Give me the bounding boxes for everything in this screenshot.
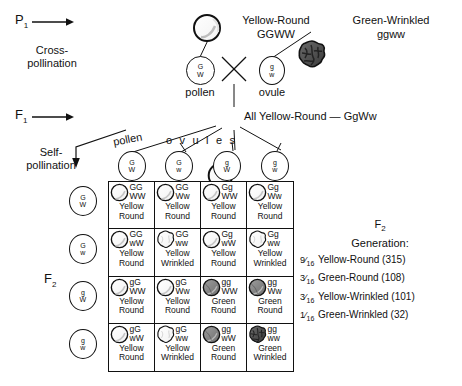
gamete-pollen-p1: G W [186,56,215,85]
punnett-cell: ggwWGreenRound [201,324,247,371]
punnett-cell: gGwWYellowRound [109,324,155,371]
side-gamete-3: g W [69,281,97,311]
punnett-cell-seed-and-genotype: GGwW [109,230,155,249]
punnett-cell-seed-and-genotype: ggww [247,325,293,344]
punnett-cell-genotype: ggWw [268,278,282,296]
seed-icon [110,183,129,202]
side-gamete-4: g w [69,329,97,359]
punnett-cell-phenotype-shape: Wrinkled [161,353,194,363]
punnett-cell-seed-and-genotype: ggWw [247,278,293,297]
genotype-gene-shape: wW [222,334,236,343]
punnett-cell-genotype: Ggww [268,230,280,248]
legend-subheading: Generation: [300,236,460,250]
punnett-cell-genotype: ggwW [222,325,236,343]
top-gamete-1: G W [118,151,146,181]
f1-caption: All Yellow-Round — GgWw [244,110,377,123]
seed-icon [248,230,267,249]
punnett-cell-phenotype-shape: Round [257,212,282,222]
punnett-cell-genotype: ggWW [222,278,238,296]
top-gamete-4: g w [261,151,289,181]
genotype-gene-shape: wW [130,239,144,248]
fraction-denominator: 16 [307,297,315,304]
seed-icon [110,230,129,249]
punnett-cell-genotype: GgWW [222,183,238,201]
legend-row-text: Green-Wrinkled (32) [318,309,408,320]
genotype-gene-shape: Ww [176,192,190,201]
genotype-gene-shape: ww [268,334,280,343]
genotype-gene-shape: ww [268,239,280,248]
punnett-cell: GGwwYellowWrinkled [155,229,201,276]
genotype-gene-shape: wW [130,334,144,343]
punnett-cell-seed-and-genotype: GGWW [109,183,155,202]
ovules-header-label: o v u l e s [166,134,237,147]
punnett-cell-seed-and-genotype: gGww [155,325,201,344]
punnett-cell-phenotype-shape: Round [119,212,144,222]
f1-label: F1 [15,108,27,127]
legend-fraction: 3⁄16 [300,271,315,289]
seed-icon [110,278,129,297]
seed-icon [202,325,221,344]
legend-row-text: Yellow-Wrinkled (101) [318,291,415,302]
fraction-denominator: 16 [307,278,315,285]
punnett-cell-seed-and-genotype: GgWW [201,183,247,202]
seed-icon [248,278,267,297]
punnett-cell-genotype: ggww [268,325,280,343]
parent-seed-green-wrinkled [298,40,462,68]
punnett-cell-phenotype-shape: Round [119,353,144,363]
punnett-cell: GgwwYellowWrinkled [247,229,293,276]
pollen-label-p1: pollen [172,86,228,99]
punnett-cell-seed-and-genotype: GGWw [155,183,201,202]
cross-pollination-label: Cross- pollination [8,44,96,70]
fraction-denominator: 16 [307,315,315,322]
parent-green-wrinkled-caption: Green-Wrinkled ggww [330,13,452,41]
ovule-label-p1: ovule [244,86,300,99]
top-gamete-3: g W [213,151,241,181]
punnett-square: GGWWYellowRoundGGWwYellowRoundGgWWYellow… [108,181,294,372]
punnett-cell-phenotype-shape: Round [211,259,236,269]
gamete-ovule-p1: g w [259,56,285,85]
genotype-gene-shape: ww [176,334,188,343]
top-gamete-2: G w [165,151,193,181]
punnett-cell-seed-and-genotype: gGwW [109,325,155,344]
punnett-cell: gGWWYellowRound [109,277,155,324]
genotype-gene-shape: Ww [268,192,282,201]
genotype-gene-shape: WW [130,192,146,201]
genotype-gene-shape: WW [222,287,238,296]
seed-icon [156,183,175,202]
genotype-gene-shape: wW [222,239,236,248]
legend-fraction: 1⁄16 [300,308,315,326]
genotype-gene-shape: ww [176,239,189,248]
punnett-cell-phenotype-shape: Round [211,212,236,222]
self-pollination-label: Self- pollination [5,146,97,172]
parent-yellow-round-caption: Yellow-Round GGWW [222,13,330,41]
punnett-cell-seed-and-genotype: gGWW [109,278,155,297]
punnett-cell-seed-and-genotype: GGww [155,230,201,249]
p1-label: P1 [15,13,28,32]
punnett-cell-genotype: GgwW [222,230,236,248]
genotype-gene-shape: Ww [268,287,282,296]
punnett-cell: gGwwYellowWrinkled [155,324,201,371]
seed-icon [110,325,129,344]
f2-legend: F2 Generation: 9⁄16Yellow-Round (315)3⁄1… [300,217,460,326]
punnett-cell-phenotype-shape: Round [211,306,236,316]
seed-icon [202,230,221,249]
legend-row-text: Yellow-Round (315) [318,254,405,265]
punnett-cell-genotype: gGWW [130,278,146,296]
punnett-cell-seed-and-genotype: gGWw [155,278,201,297]
punnett-cell-phenotype-shape: Wrinkled [161,259,194,269]
fraction-denominator: 16 [307,260,315,267]
punnett-cell: GgWwYellowRound [247,182,293,229]
punnett-cell-phenotype-shape: Round [211,353,236,363]
punnett-cell-phenotype-shape: Round [165,306,190,316]
seed-icon [156,325,175,344]
punnett-cell-seed-and-genotype: Ggww [247,230,293,249]
f2-label: F2 [44,272,56,291]
punnett-cell: GgWWYellowRound [201,182,247,229]
punnett-cell: GgwWYellowRound [201,229,247,276]
legend-heading: F2 [300,217,460,236]
side-gamete-2: G w [69,234,97,264]
punnett-cell-genotype: GGww [176,230,189,248]
seed-icon [156,230,175,249]
punnett-cell-genotype: gGwW [130,325,144,343]
punnett-cell-genotype: GgWw [268,183,282,201]
